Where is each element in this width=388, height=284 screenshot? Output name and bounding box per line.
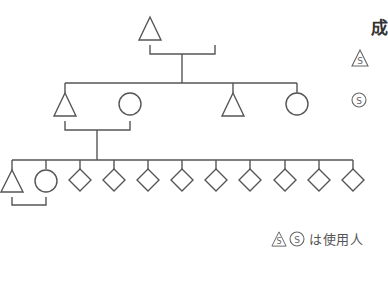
gen3-diamond-icon	[239, 169, 261, 191]
gen2-male-triangle-icon	[54, 93, 76, 116]
legend-servant-male: S	[351, 49, 369, 71]
gen3-diamond-icon	[308, 169, 330, 191]
gen1-male-triangle-icon	[139, 17, 161, 40]
svg-text:S: S	[356, 96, 362, 106]
servant-female-circle-icon: S	[289, 231, 305, 247]
svg-text:S: S	[357, 56, 363, 66]
gen3-diamond-icon	[171, 169, 193, 191]
gen2-marriage-bracket	[65, 121, 130, 130]
svg-text:S: S	[276, 237, 281, 246]
servant-male-triangle-icon: S	[351, 49, 369, 67]
gen2-female-circle-icon	[119, 93, 141, 115]
gen3-diamond-icon	[69, 169, 91, 191]
legend-servant-female: S	[351, 92, 367, 112]
gen2-female-circle-icon	[286, 93, 308, 115]
gen3-male-triangle-icon	[1, 170, 23, 192]
gen3-marriage-bracket	[12, 197, 46, 205]
gen1-marriage-bracket	[150, 45, 215, 54]
gen3-drop-lines	[12, 160, 353, 170]
gen3-diamond-icon	[103, 169, 125, 191]
caption: S S は使用人	[271, 229, 363, 248]
caption-text: は使用人	[309, 229, 363, 248]
gen2-male-triangle-icon	[222, 93, 244, 116]
gen3-diamond-icon	[205, 169, 227, 191]
servant-female-circle-icon: S	[351, 92, 367, 108]
gen3-diamond-icon	[342, 169, 364, 191]
servant-male-triangle-icon: S	[271, 231, 287, 247]
svg-text:S: S	[294, 234, 300, 244]
gen3-female-circle-icon	[35, 170, 57, 192]
gen3-diamond-icon	[137, 169, 159, 191]
gen3-diamond-icon	[274, 169, 296, 191]
legend-title: 成	[371, 14, 388, 39]
